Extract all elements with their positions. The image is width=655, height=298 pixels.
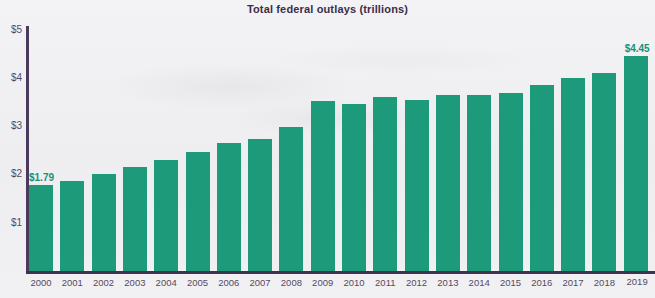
bar-slot — [530, 26, 554, 271]
y-axis-tick-label: $2 — [0, 168, 22, 179]
bar-slot — [311, 26, 335, 271]
x-axis-tick-label-2017: 2017 — [556, 277, 590, 288]
x-axis-tick-label-2006: 2006 — [212, 277, 246, 288]
x-axis-tick-label-2003: 2003 — [118, 277, 152, 288]
x-axis-tick-label-2015: 2015 — [494, 277, 528, 288]
bar-2017[interactable] — [561, 78, 585, 271]
x-axis-tick-label-2007: 2007 — [243, 277, 277, 288]
bar-2008[interactable] — [279, 127, 303, 271]
y-axis-tick-label: $5 — [0, 24, 22, 35]
bar-2006[interactable] — [217, 143, 241, 271]
bar-2019[interactable] — [624, 56, 648, 271]
bar-2003[interactable] — [123, 167, 147, 271]
bar-2010[interactable] — [342, 104, 366, 271]
bar-slot — [499, 26, 523, 271]
bar-2000[interactable] — [29, 185, 53, 271]
x-axis-tick-label-2009: 2009 — [306, 277, 340, 288]
bar-slot — [373, 26, 397, 271]
bar-2011[interactable] — [373, 97, 397, 271]
bar-2012[interactable] — [405, 100, 429, 271]
bar-slot — [592, 26, 616, 271]
bar-2014[interactable] — [467, 95, 491, 271]
bar-2007[interactable] — [248, 139, 272, 271]
x-axis-tick-label-2008: 2008 — [274, 277, 308, 288]
bar-slot — [467, 26, 491, 271]
y-axis-tick-labels: $5$4$3$2$1 — [0, 0, 24, 298]
bar-2001[interactable] — [60, 181, 84, 271]
x-axis-tick-label-2010: 2010 — [337, 277, 371, 288]
chart-title: Total federal outlays (trillions) — [0, 3, 655, 15]
x-axis-tick-label-2004: 2004 — [149, 277, 183, 288]
bar-value-label-2000: $1.79 — [29, 172, 54, 183]
y-axis-tick-label: $4 — [0, 72, 22, 83]
bar-2009[interactable] — [311, 101, 335, 271]
x-axis-line — [26, 271, 655, 274]
bar-slot: $4.45 — [624, 26, 648, 271]
bar-series: $1.79$4.45 — [29, 26, 655, 271]
bar-slot — [436, 26, 460, 271]
bar-2013[interactable] — [436, 95, 460, 271]
x-axis-tick-label-2013: 2013 — [431, 277, 465, 288]
x-axis-tick-label-2016: 2016 — [525, 277, 559, 288]
x-axis-tick-label-2012: 2012 — [400, 277, 434, 288]
bar-2004[interactable] — [154, 160, 178, 271]
bar-slot — [342, 26, 366, 271]
bar-2018[interactable] — [592, 73, 616, 272]
x-axis-tick-label-2000: 2000 — [24, 277, 58, 288]
x-axis-tick-label-2001: 2001 — [55, 277, 89, 288]
bar-2002[interactable] — [92, 174, 116, 271]
bar-2005[interactable] — [186, 152, 210, 271]
bar-slot — [405, 26, 429, 271]
bar-slot — [248, 26, 272, 271]
y-axis-tick-label: $3 — [0, 120, 22, 131]
bar-slot — [561, 26, 585, 271]
x-axis-tick-labels: 2000200120022003200420052006200720082009… — [29, 277, 655, 295]
bar-2015[interactable] — [499, 93, 523, 271]
bar-slot — [186, 26, 210, 271]
x-axis-tick-label-2002: 2002 — [87, 277, 121, 288]
bar-slot — [60, 26, 84, 271]
bar-chart: Total federal outlays (trillions) $5$4$3… — [0, 0, 655, 298]
bar-2016[interactable] — [530, 85, 554, 271]
bar-slot — [279, 26, 303, 271]
y-axis-tick-label: $1 — [0, 217, 22, 228]
x-axis-tick-label-2005: 2005 — [181, 277, 215, 288]
bar-value-label-2019: $4.45 — [625, 43, 650, 54]
x-axis-tick-label-2014: 2014 — [462, 277, 496, 288]
bar-slot — [123, 26, 147, 271]
x-axis-tick-label-2011: 2011 — [368, 277, 402, 288]
bar-slot — [154, 26, 178, 271]
bar-slot — [217, 26, 241, 271]
bar-slot: $1.79 — [29, 26, 53, 271]
x-axis-tick-label-2019: 2019 — [618, 276, 648, 287]
x-axis-tick-label-2018: 2018 — [587, 277, 621, 288]
bar-slot — [92, 26, 116, 271]
